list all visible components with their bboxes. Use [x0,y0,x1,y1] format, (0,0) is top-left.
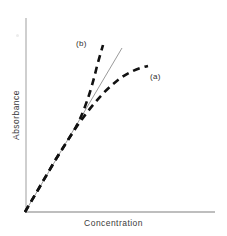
curve-a [25,66,148,212]
curve-b [25,45,103,212]
curve-b-label: (b) [76,39,87,48]
x-axis-label: Concentration [0,218,227,228]
scan-artifact-speck [16,34,19,37]
plot-area [0,0,227,236]
y-axis-label: Absorbance [11,65,21,165]
curve-a-label: (a) [150,72,161,81]
chart-figure: Concentration Absorbance (b) (a) [0,0,227,236]
